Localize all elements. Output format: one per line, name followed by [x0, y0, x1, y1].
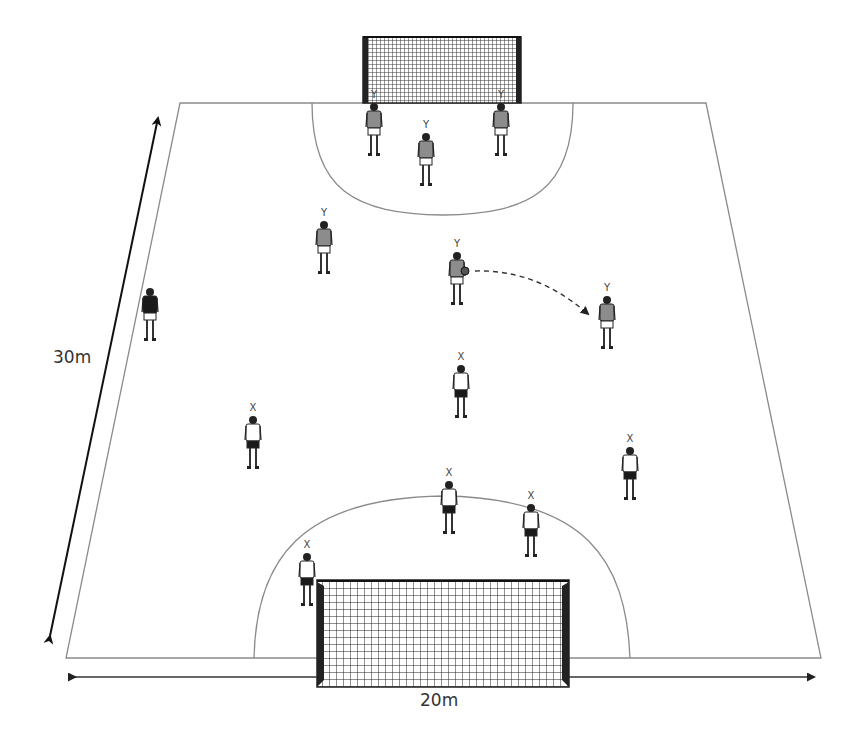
player-label: Y	[603, 282, 611, 293]
player-label: X	[250, 402, 257, 413]
length-label: 30m	[53, 347, 91, 367]
player-label: X	[304, 539, 311, 550]
player-label: Y	[422, 119, 430, 130]
player-label: X	[528, 490, 535, 501]
field	[66, 103, 821, 658]
player-label: Y	[497, 89, 505, 100]
player-label: Y	[370, 89, 378, 100]
player-label: Y	[453, 238, 461, 249]
player-label: X	[627, 433, 634, 444]
ball-icon	[461, 267, 469, 275]
player-label: X	[458, 351, 465, 362]
width-label: 20m	[420, 690, 458, 710]
bottom-goal	[317, 580, 569, 687]
field-outline	[66, 103, 821, 658]
player-label: X	[446, 467, 453, 478]
court-svg: YYYYYYXXXXXX	[0, 0, 866, 743]
handball-court-diagram: YYYYYYXXXXXX 30m 20m	[0, 0, 866, 743]
player-label: Y	[320, 207, 328, 218]
